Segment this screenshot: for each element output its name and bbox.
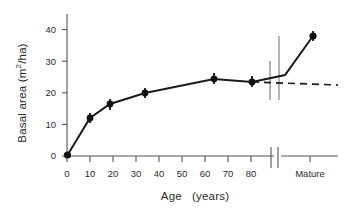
y-tick-label-20: 20 bbox=[34, 87, 56, 98]
axis-break-marks bbox=[271, 147, 278, 168]
y-axis-title-suffix: /ha) bbox=[16, 43, 28, 64]
y-axis-title-prefix: Basal area (m bbox=[16, 68, 28, 142]
y-tick-label-30: 30 bbox=[34, 56, 56, 67]
x-tick-label-mature: Mature bbox=[288, 168, 332, 179]
y-tick-label-40: 40 bbox=[34, 24, 56, 35]
basal-area-chart-figure: 40 30 20 10 0 0 10 20 30 40 50 60 70 80 … bbox=[0, 0, 346, 215]
y-axis-ticks bbox=[62, 30, 67, 156]
error-bars bbox=[68, 31, 314, 157]
x-axis-title: Age (years) bbox=[60, 190, 330, 202]
data-point-age-80 bbox=[249, 79, 256, 86]
axis-break-risers bbox=[270, 36, 279, 100]
y-axis-title-superscript: 2 bbox=[14, 64, 23, 69]
data-point-mature bbox=[309, 32, 316, 39]
data-point-age-34 bbox=[142, 90, 149, 97]
x-tick-label-80: 80 bbox=[231, 168, 271, 179]
data-point-age-19 bbox=[107, 101, 114, 108]
projected-trend-line bbox=[252, 82, 338, 85]
series-line-basal-area bbox=[68, 36, 314, 155]
y-axis-title: Basal area (m2/ha) bbox=[14, 28, 28, 158]
x-axis-title-name: Age bbox=[161, 190, 182, 202]
y-tick-label-10: 10 bbox=[34, 119, 56, 130]
data-point-age-0 bbox=[64, 151, 71, 158]
data-point-age-59 bbox=[211, 76, 218, 83]
x-axis-title-units: (years) bbox=[192, 190, 229, 202]
y-tick-label-0: 0 bbox=[34, 150, 56, 161]
x-axis-ticks bbox=[67, 156, 310, 162]
data-point-age-10 bbox=[87, 115, 94, 122]
